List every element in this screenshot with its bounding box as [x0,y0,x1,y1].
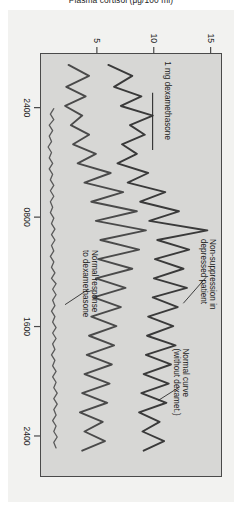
x-tick-label-2400-end: 2400 [22,421,32,451]
x-tick-label-1600: 1600 [22,312,32,342]
plot-area [40,53,222,477]
y-tick-label-15: 15 [206,25,216,43]
x-tick-label-2400-start: 2400 [22,93,32,123]
series-line-0 [108,65,207,451]
cortisol-chart: Plasma cortisol (μg/100 ml) 15 10 5 2400… [14,21,228,491]
figure-page: Plasma cortisol (μg/100 ml) 15 10 5 2400… [0,0,242,512]
y-axis-title: Plasma cortisol (μg/100 ml) [14,0,228,9]
series-line-2 [48,109,57,448]
y-tick-label-10: 10 [149,25,159,43]
data-curves [40,54,221,477]
annotation-dexamethasone-dose: 1 mg dexamethasone [162,61,172,140]
y-tick-label-5: 5 [92,25,102,43]
annotation-normal-response: Normal response to dexamethasone [80,250,99,317]
x-tick-label-0800: 0800 [22,202,32,232]
rotated-figure-wrapper: Plasma cortisol (μg/100 ml) 15 10 5 2400… [14,21,228,491]
annotation-non-suppression: Non-suppression in depressed patient [198,239,217,310]
annotation-normal-curve: Normal curve (without dexamet.) [171,348,190,415]
